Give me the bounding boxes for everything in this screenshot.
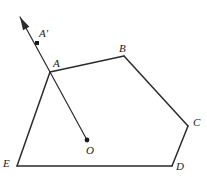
- segment-AO: [50, 72, 87, 140]
- vertex-label-A: A: [53, 58, 60, 69]
- vertex-label-A-prime: A': [39, 28, 48, 39]
- vertex-label-B: B: [119, 43, 126, 54]
- point-marker-O: [85, 138, 90, 143]
- edge-BC: [124, 56, 188, 126]
- edge-AB: [50, 56, 124, 72]
- vertex-label-O: O: [86, 145, 94, 156]
- edge-EA: [17, 72, 50, 166]
- vertex-label-D: D: [176, 161, 184, 172]
- arrowhead-icon: [20, 17, 29, 30]
- geometry-figure: A A' B C D E O: [0, 0, 207, 177]
- vertex-label-C: C: [193, 117, 200, 128]
- vertex-label-E: E: [3, 158, 10, 169]
- geometry-canvas: [0, 0, 207, 177]
- point-marker-Aprime: [35, 41, 39, 45]
